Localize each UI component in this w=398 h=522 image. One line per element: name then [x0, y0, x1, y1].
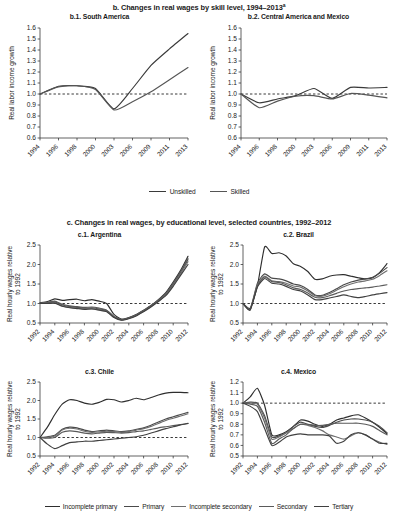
svg-text:2000: 2000	[85, 327, 100, 342]
svg-text:1.2: 1.2	[228, 68, 237, 75]
panel-title-b1: b.1. South America	[0, 13, 199, 20]
legend-label: Tertiary	[332, 503, 353, 510]
chart-b1-svg: 0.60.70.80.91.01.11.21.31.41.51.61994199…	[0, 22, 199, 182]
svg-text:2002: 2002	[100, 327, 115, 342]
svg-text:1.5: 1.5	[27, 280, 36, 287]
chart-c1: 0.51.01.52.02.51992199419961998200020022…	[0, 240, 199, 370]
svg-text:1.6: 1.6	[228, 24, 237, 31]
svg-text:1.5: 1.5	[27, 415, 36, 422]
svg-text:1998: 1998	[272, 460, 287, 475]
svg-text:2004: 2004	[115, 460, 130, 475]
legend-item-primary: Primary	[124, 503, 164, 510]
legend-label: Secondary	[277, 503, 308, 510]
svg-text:2.5: 2.5	[230, 241, 239, 248]
svg-text:1998: 1998	[272, 327, 287, 342]
svg-text:2012: 2012	[174, 460, 189, 475]
svg-text:2000: 2000	[286, 460, 301, 475]
panel-title-c3: c.3. Chile	[0, 368, 199, 375]
svg-text:1.0: 1.0	[27, 300, 36, 307]
svg-text:2002: 2002	[301, 460, 316, 475]
legend-label: Primary	[142, 503, 164, 510]
svg-text:0.8: 0.8	[228, 112, 237, 119]
section-c-title: c. Changes in real wages, by educational…	[0, 218, 398, 227]
chart-c4: 0.50.60.70.80.91.01.11.21992199419961998…	[199, 377, 398, 501]
chart-b2-svg: 0.60.70.80.91.01.11.21.31.41.51.61994199…	[199, 22, 398, 182]
svg-text:0.7: 0.7	[230, 431, 239, 438]
svg-text:2006: 2006	[129, 460, 144, 475]
svg-text:1.3: 1.3	[228, 57, 237, 64]
svg-text:0.7: 0.7	[27, 123, 36, 130]
svg-text:1.0: 1.0	[230, 399, 239, 406]
svg-text:2000: 2000	[81, 142, 96, 157]
legend-item-tertiary: Tertiary	[314, 503, 353, 510]
svg-text:1.1: 1.1	[228, 79, 237, 86]
svg-text:1.5: 1.5	[27, 35, 36, 42]
legend-line-icon	[210, 191, 227, 192]
svg-text:to 1992: to 1992	[217, 273, 224, 295]
chart-c1-svg: 0.51.01.52.02.51992199419961998200020022…	[0, 240, 199, 370]
svg-text:0.5: 0.5	[230, 319, 239, 326]
legend-item-skilled: Skilled	[210, 188, 250, 195]
svg-text:2012: 2012	[373, 327, 388, 342]
svg-text:2008: 2008	[144, 327, 159, 342]
svg-text:1.1: 1.1	[27, 79, 36, 86]
svg-text:2004: 2004	[315, 460, 330, 475]
svg-text:2006: 2006	[318, 142, 333, 157]
legend-section-b: Unskilled Skilled	[0, 188, 398, 195]
svg-text:1996: 1996	[55, 327, 70, 342]
chart-b2: 0.60.70.80.91.01.11.21.31.41.51.61994199…	[199, 22, 398, 182]
svg-text:2010: 2010	[358, 460, 373, 475]
svg-text:2002: 2002	[301, 327, 316, 342]
legend-line-icon	[45, 506, 60, 507]
svg-text:1.6: 1.6	[27, 24, 36, 31]
svg-text:Real labor income growth: Real labor income growth	[8, 46, 16, 120]
svg-text:1994: 1994	[41, 460, 56, 475]
svg-text:1.2: 1.2	[230, 378, 239, 385]
svg-text:2003: 2003	[300, 142, 315, 157]
svg-text:2000: 2000	[281, 142, 296, 157]
legend-line-icon	[171, 506, 186, 507]
svg-text:to 1992: to 1992	[14, 408, 21, 430]
svg-text:1994: 1994	[243, 327, 258, 342]
svg-text:0.6: 0.6	[27, 134, 36, 141]
legend-label: Incomplete secondary	[189, 503, 252, 510]
svg-text:0.5: 0.5	[230, 452, 239, 459]
svg-text:2012: 2012	[174, 327, 189, 342]
svg-text:2010: 2010	[159, 460, 174, 475]
chart-b1: 0.60.70.80.91.01.11.21.31.41.51.61994199…	[0, 22, 199, 182]
svg-text:0.9: 0.9	[27, 101, 36, 108]
svg-text:1.1: 1.1	[230, 389, 239, 396]
svg-text:0.8: 0.8	[230, 421, 239, 428]
svg-text:2013: 2013	[174, 142, 189, 157]
svg-text:1.5: 1.5	[228, 35, 237, 42]
svg-text:0.8: 0.8	[27, 112, 36, 119]
svg-text:2008: 2008	[144, 460, 159, 475]
svg-text:0.5: 0.5	[27, 452, 36, 459]
svg-text:1.0: 1.0	[230, 300, 239, 307]
svg-text:0.9: 0.9	[228, 101, 237, 108]
svg-text:1994: 1994	[41, 327, 56, 342]
svg-text:1.4: 1.4	[228, 46, 237, 53]
svg-text:2006: 2006	[330, 327, 345, 342]
svg-text:2010: 2010	[358, 327, 373, 342]
svg-text:to 1992: to 1992	[14, 273, 21, 295]
svg-text:0.9: 0.9	[230, 410, 239, 417]
svg-text:1996: 1996	[55, 460, 70, 475]
svg-text:1998: 1998	[63, 142, 78, 157]
svg-text:1994: 1994	[26, 142, 41, 157]
chart-c3: 0.51.01.52.02.51992199419961998200020022…	[0, 377, 199, 501]
figure-root: b. Changes in real wages by skill level,…	[0, 0, 398, 522]
svg-text:2000: 2000	[286, 327, 301, 342]
svg-text:1996: 1996	[44, 142, 59, 157]
section-b-title: b. Changes in real wages by skill level,…	[0, 2, 398, 12]
svg-text:1994: 1994	[243, 460, 258, 475]
svg-text:0.6: 0.6	[228, 134, 237, 141]
legend-line-icon	[124, 506, 139, 507]
chart-c2: 0.51.01.52.02.51992199419961998200020022…	[199, 240, 398, 370]
chart-c2-svg: 0.51.01.52.02.51992199419961998200020022…	[199, 240, 398, 370]
svg-text:2009: 2009	[336, 142, 351, 157]
panel-title-c1: c.1. Argentina	[0, 231, 199, 238]
svg-text:2.0: 2.0	[27, 261, 36, 268]
svg-text:0.7: 0.7	[228, 123, 237, 130]
svg-text:2011: 2011	[355, 142, 370, 157]
